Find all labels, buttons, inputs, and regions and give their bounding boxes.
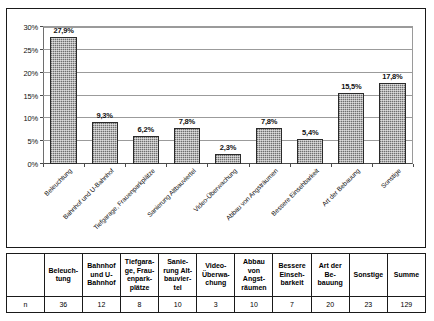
data-table: Beleuch-tungBahnhofund U-BahnhofTiefgara… <box>6 253 426 313</box>
bar <box>50 37 76 164</box>
bar <box>92 122 118 164</box>
plot-area: 0%5%10%15%20%25%30% 27,9%9,3%6,2%7,8%2,3… <box>43 27 413 164</box>
bar-value-label: 27,9% <box>53 26 73 35</box>
bar-slot: 6,2% <box>125 27 166 164</box>
y-axis-tick-label: 20% <box>24 68 38 77</box>
bar-slot: 15,5% <box>331 27 372 164</box>
bar-slot: 7,8% <box>249 27 290 164</box>
bar <box>256 128 282 164</box>
bar <box>338 93 364 164</box>
bar-slot: 2,3% <box>207 27 248 164</box>
x-axis-category-labels: BeleuchtungBahnhof und U-BahnhofTiefgara… <box>43 165 413 249</box>
bar-value-label: 2,3% <box>220 143 236 152</box>
bar-value-label: 17,8% <box>382 72 402 81</box>
table-header: Beleuch-tungBahnhofund U-BahnhofTiefgara… <box>7 254 426 297</box>
bar-slot: 9,3% <box>84 27 125 164</box>
table-cell: 23 <box>349 297 387 313</box>
table-header-row: Beleuch-tungBahnhofund U-BahnhofTiefgara… <box>7 254 426 297</box>
table-column-header: Video-Überwa-chung <box>197 254 235 297</box>
y-axis-tick-label: 0% <box>28 160 38 169</box>
bar-value-label: 6,2% <box>138 125 154 134</box>
table-body: n 361281031072023129 <box>7 297 426 313</box>
table-cell: 36 <box>44 297 82 313</box>
y-axis-tick-label: 15% <box>24 91 38 100</box>
bar-value-label: 7,8% <box>179 117 195 126</box>
x-axis-tick-mark <box>413 164 414 167</box>
table-cell: 10 <box>235 297 273 313</box>
bar <box>379 83 405 164</box>
x-axis-category-label: Art der Bebauung <box>321 167 361 207</box>
x-axis-category-label: Video-Überwachung <box>192 167 238 213</box>
y-axis-tick-label: 5% <box>28 137 38 146</box>
y-axis-tick-label: 10% <box>24 114 38 123</box>
table-row: n 361281031072023129 <box>7 297 426 313</box>
table-cell: 7 <box>273 297 311 313</box>
bar-value-label: 9,3% <box>97 111 113 120</box>
table-column-header: Bahnhofund U-Bahnhof <box>82 254 120 297</box>
bar-slot: 17,8% <box>372 27 413 164</box>
table-cell: 8 <box>120 297 158 313</box>
bar-value-label: 7,8% <box>261 117 277 126</box>
table-column-header: Beleuch-tung <box>44 254 82 297</box>
bar-slot: 5,4% <box>290 27 331 164</box>
table-cell: 3 <box>197 297 235 313</box>
y-axis-tick-label: 25% <box>24 45 38 54</box>
table-column-header: Sanie-rung Alt-bauvier-tel <box>159 254 197 297</box>
table-column-header: Abbau vonAngst-räumen <box>235 254 273 297</box>
bar-value-label: 5,4% <box>302 128 318 137</box>
chart-frame: 0%5%10%15%20%25%30% 27,9%9,3%6,2%7,8%2,3… <box>6 8 426 248</box>
table-row-label: n <box>7 297 45 313</box>
table-corner-cell <box>7 254 45 297</box>
table-cell: 129 <box>387 297 425 313</box>
bar-slot: 27,9% <box>43 27 84 164</box>
x-axis-category-label: Beleuchtung <box>43 167 73 197</box>
bar <box>133 136 159 164</box>
table-column-header: Art der Be-bauung <box>311 254 349 297</box>
bar <box>174 128 200 164</box>
bar-slot: 7,8% <box>166 27 207 164</box>
table-column-header: BessereEinseh-barkeit <box>273 254 311 297</box>
table-cell: 12 <box>82 297 120 313</box>
bar-value-label: 15,5% <box>341 82 361 91</box>
table-cell: 10 <box>159 297 197 313</box>
y-axis-tick-label: 30% <box>24 23 38 32</box>
bar <box>215 154 241 165</box>
table-column-header: Tiefgara-ge, Frau-enpark-plätze <box>120 254 158 297</box>
table-column-header: Sonstige <box>349 254 387 297</box>
x-axis-category-label: Sonstige <box>380 167 403 190</box>
x-axis-category-label: Bessere Einsehbarkeit <box>270 167 320 217</box>
table-column-header: Summe <box>387 254 425 297</box>
bar <box>297 139 323 164</box>
table-cell: 20 <box>311 297 349 313</box>
